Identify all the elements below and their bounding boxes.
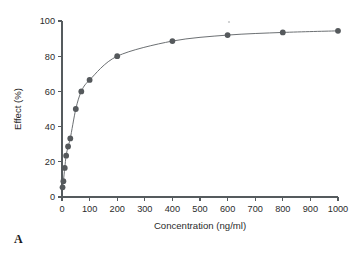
y-tick-label: 20 <box>45 157 55 167</box>
data-point <box>65 144 71 150</box>
x-tick-label: 400 <box>165 204 180 214</box>
x-tick-label: 600 <box>220 204 235 214</box>
x-tick-label: 0 <box>59 204 64 214</box>
figure-panel: 020406080100 010020030040050060070080090… <box>0 0 352 258</box>
data-point <box>73 106 79 112</box>
x-tick-label: 300 <box>137 204 152 214</box>
x-tick-label: 900 <box>303 204 318 214</box>
x-tick-label: 700 <box>248 204 263 214</box>
x-axis-ticks: 01002003004005006007008009001000 <box>59 197 348 214</box>
x-tick-label: 200 <box>110 204 125 214</box>
y-tick-label: 0 <box>50 192 55 202</box>
panel-label: A <box>14 232 23 247</box>
x-tick-label: 100 <box>82 204 97 214</box>
data-point <box>67 135 73 141</box>
x-tick-label: 800 <box>275 204 290 214</box>
effect-curve-line <box>63 31 338 187</box>
data-point <box>63 153 69 159</box>
y-tick-label: 60 <box>45 87 55 97</box>
data-point <box>78 89 84 95</box>
data-point <box>114 53 120 59</box>
x-tick-label: 500 <box>192 204 207 214</box>
scan-speck <box>228 21 230 23</box>
effect-data-markers <box>60 28 341 190</box>
data-point <box>280 30 286 36</box>
y-axis-title-group: Effect (%) <box>12 88 23 130</box>
y-tick-label: 100 <box>40 16 55 26</box>
data-point <box>60 178 66 184</box>
dose-response-chart: 020406080100 010020030040050060070080090… <box>0 0 352 258</box>
x-axis-title: Concentration (ng/ml) <box>154 220 246 231</box>
y-axis-ticks: 020406080100 <box>40 16 62 202</box>
data-point <box>62 165 68 171</box>
data-point <box>60 184 66 190</box>
x-tick-label: 1000 <box>328 204 348 214</box>
axes-group <box>62 21 338 197</box>
data-point <box>335 28 341 34</box>
data-point <box>170 38 176 44</box>
y-tick-label: 80 <box>45 52 55 62</box>
data-point <box>87 77 93 83</box>
data-point <box>225 32 231 38</box>
y-tick-label: 40 <box>45 122 55 132</box>
y-axis-title: Effect (%) <box>12 88 23 130</box>
